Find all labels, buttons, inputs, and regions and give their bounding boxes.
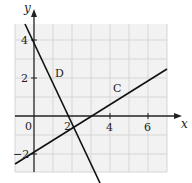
coordinate-plot: y x 0 2 4 6 4 2 −2 D C <box>0 0 192 183</box>
x-tick-2-label: 2 <box>64 120 71 133</box>
y-axis-arrow-icon <box>31 9 37 17</box>
line-c-label: C <box>113 82 121 95</box>
y-tick-neg2-label: −2 <box>13 148 29 161</box>
x-tick-4-label: 4 <box>106 121 113 134</box>
y-axis-label: y <box>23 1 31 15</box>
line-d-label: D <box>55 67 64 80</box>
y-tick-2-label: 2 <box>21 72 28 85</box>
y-tick-4-label: 4 <box>21 34 28 47</box>
origin-label: 0 <box>25 120 32 133</box>
x-tick-6-label: 6 <box>144 121 151 134</box>
x-axis-label: x <box>181 117 188 131</box>
